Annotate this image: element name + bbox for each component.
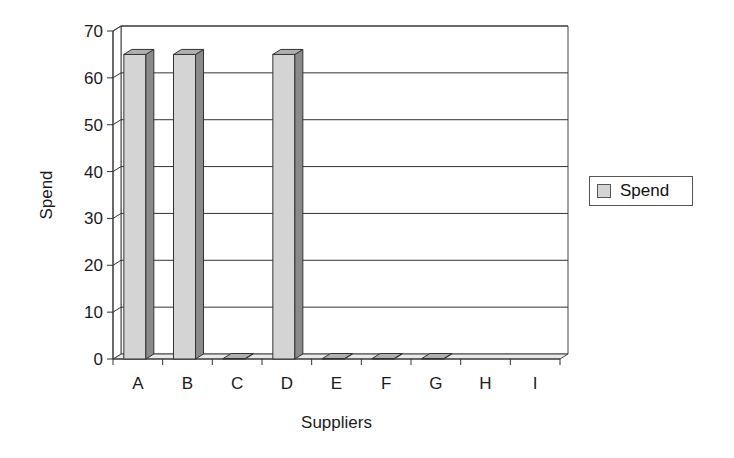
y-tick-label: 60 xyxy=(84,69,103,88)
bar-front xyxy=(124,54,146,359)
chart: 010203040506070ABCDEFGHISuppliersSpend xyxy=(0,0,734,458)
bar-side xyxy=(196,49,204,359)
y-tick-label: 10 xyxy=(84,303,103,322)
x-tick-label: B xyxy=(182,374,193,393)
legend-label: Spend xyxy=(620,181,669,201)
y-tick-label: 40 xyxy=(84,163,103,182)
x-tick-label: E xyxy=(331,374,342,393)
bar-side xyxy=(295,49,303,359)
x-axis-title: Suppliers xyxy=(301,413,372,432)
x-tick-label: D xyxy=(281,374,293,393)
x-tick-label: C xyxy=(231,374,243,393)
y-tick-label: 70 xyxy=(84,22,103,41)
bar-front xyxy=(273,54,295,359)
y-axis-title: Spend xyxy=(37,170,56,219)
x-tick-label: A xyxy=(132,374,144,393)
legend: Spend xyxy=(589,176,693,206)
bar-front xyxy=(174,54,196,359)
y-tick-label: 50 xyxy=(84,116,103,135)
bar-side xyxy=(146,49,154,359)
legend-swatch xyxy=(597,184,611,198)
x-tick-label: F xyxy=(381,374,391,393)
side-wall xyxy=(113,26,121,359)
y-tick-label: 20 xyxy=(84,256,103,275)
y-tick-label: 0 xyxy=(94,350,103,369)
x-tick-label: G xyxy=(429,374,442,393)
x-tick-label: H xyxy=(479,374,491,393)
y-tick-label: 30 xyxy=(84,209,103,228)
x-tick-label: I xyxy=(533,374,538,393)
